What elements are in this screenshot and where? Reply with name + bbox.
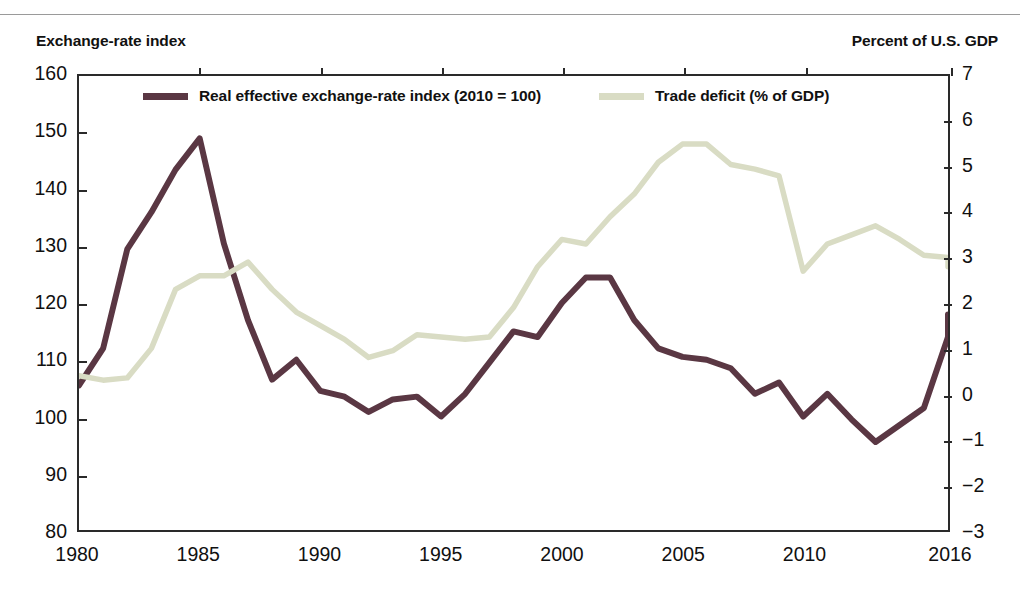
y-axis-tick-mark	[79, 190, 87, 192]
y-axis-tick-label: 100	[19, 408, 67, 428]
y2-axis-tick-mark	[944, 487, 952, 489]
y2-axis-tick-mark	[944, 258, 952, 260]
y-axis-tick-label: 120	[19, 293, 67, 313]
x-axis-tick-mark	[684, 68, 686, 76]
y2-axis-tick-mark	[944, 396, 952, 398]
y-axis-tick-mark	[79, 476, 87, 478]
x-axis-tick-label: 2000	[517, 545, 607, 565]
x-axis-tick-label: 2010	[760, 545, 850, 565]
y2-axis-tick-label: 7	[962, 64, 1002, 84]
y2-axis-tick-label: 2	[962, 293, 1002, 313]
x-axis-tick-mark	[199, 68, 201, 76]
x-axis-tick-mark	[951, 68, 953, 76]
legend-item-exchange-rate: Real effective exchange-rate index (2010…	[143, 87, 541, 105]
y-axis-tick-label: 110	[19, 350, 67, 370]
series-layer	[79, 138, 948, 442]
y2-axis-tick-mark	[944, 441, 952, 443]
y2-axis-tick-label: −3	[962, 522, 1002, 542]
y2-axis-tick-label: 3	[962, 247, 1002, 267]
x-axis-tick-label: 1985	[153, 545, 243, 565]
y-axis-tick-mark	[79, 247, 87, 249]
x-axis-tick-label: 2005	[638, 545, 728, 565]
y2-axis-tick-label: 1	[962, 339, 1002, 359]
y2-axis-tick-label: 4	[962, 201, 1002, 221]
chart-page: Exchange-rate index Percent of U.S. GDP …	[0, 0, 1020, 598]
y2-axis-tick-mark	[944, 304, 952, 306]
y-axis-tick-mark	[79, 304, 87, 306]
legend-swatch-trade-deficit	[599, 93, 644, 100]
y2-axis-tick-mark	[944, 121, 952, 123]
legend-item-trade-deficit: Trade deficit (% of GDP)	[599, 87, 829, 105]
y-axis-tick-label: 130	[19, 236, 67, 256]
y-axis-tick-label: 140	[19, 179, 67, 199]
y2-axis-tick-label: −1	[962, 430, 1002, 450]
y2-axis-tick-mark	[944, 212, 952, 214]
y-axis-tick-mark	[79, 419, 87, 421]
legend-label-exchange-rate: Real effective exchange-rate index (2010…	[199, 87, 541, 105]
y-axis-tick-label: 80	[19, 522, 67, 542]
x-axis-tick-label: 1980	[32, 545, 122, 565]
plot-area: Real effective exchange-rate index (2010…	[77, 74, 950, 532]
chart-canvas	[79, 76, 948, 530]
legend-label-trade-deficit: Trade deficit (% of GDP)	[655, 87, 829, 105]
x-axis-tick-mark	[563, 68, 565, 76]
x-axis-tick-mark	[321, 68, 323, 76]
x-axis-tick-label: 1995	[396, 545, 486, 565]
chart-legend: Real effective exchange-rate index (2010…	[79, 76, 948, 116]
y-axis-tick-label: 160	[19, 64, 67, 84]
y2-axis-tick-mark	[944, 167, 952, 169]
y-axis-tick-mark	[79, 132, 87, 134]
x-axis-tick-mark	[442, 68, 444, 76]
series-line-exchange-rate	[79, 138, 948, 442]
y-axis-tick-mark	[79, 361, 87, 363]
x-axis-tick-mark	[806, 68, 808, 76]
y2-axis-tick-label: −2	[962, 476, 1002, 496]
legend-swatch-exchange-rate	[143, 93, 188, 100]
y2-axis-tick-label: 0	[962, 385, 1002, 405]
y-axis-tick-label: 90	[19, 465, 67, 485]
y2-axis-tick-label: 5	[962, 156, 1002, 176]
x-axis-tick-label: 2016	[905, 545, 995, 565]
y-axis-tick-label: 150	[19, 121, 67, 141]
x-axis-tick-label: 1990	[275, 545, 365, 565]
y2-axis-tick-mark	[944, 350, 952, 352]
y2-axis-tick-label: 6	[962, 110, 1002, 130]
